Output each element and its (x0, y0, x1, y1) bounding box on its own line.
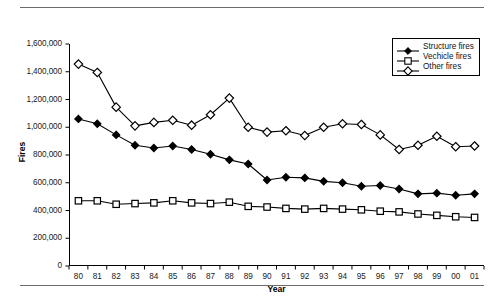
data-point-marker (414, 190, 421, 197)
data-point-marker (113, 131, 120, 138)
y-axis-tick-label: 1,200,000 (0, 96, 62, 104)
data-point-marker (414, 141, 422, 149)
x-axis-tick-label: 89 (238, 273, 258, 281)
x-axis-tick-label: 01 (465, 273, 485, 281)
x-axis-tick-label: 00 (446, 273, 466, 281)
data-point-marker (434, 212, 440, 218)
data-point-marker (415, 211, 421, 217)
data-point-marker (320, 178, 327, 185)
series-line-1 (78, 119, 474, 195)
y-axis-tick-label: 200,000 (0, 234, 62, 242)
data-point-marker (470, 142, 478, 150)
x-axis-tick-label: 87 (200, 273, 220, 281)
legend-marker-filled-diamond-icon (396, 42, 420, 52)
x-axis-tick-label: 95 (351, 273, 371, 281)
legend-item: Vechicle fires (396, 52, 474, 62)
x-axis-tick-label: 97 (389, 273, 409, 281)
data-point-marker (75, 115, 82, 122)
data-point-marker (207, 151, 214, 158)
data-point-marker (471, 190, 478, 197)
y-axis-tick-label: 800,000 (0, 151, 62, 159)
data-point-marker (169, 116, 177, 124)
y-axis-title: Fires (17, 122, 27, 182)
data-point-marker (264, 204, 270, 210)
data-point-marker (377, 182, 384, 189)
data-point-marker (453, 214, 459, 220)
data-point-marker (319, 123, 327, 131)
legend-marker-open-square-icon (396, 52, 420, 62)
data-point-marker (396, 209, 402, 215)
x-axis-tick-label: 98 (408, 273, 428, 281)
data-point-marker (150, 118, 158, 126)
data-point-marker (301, 174, 308, 181)
y-axis-tick-label: 0 (0, 262, 62, 270)
top-divider-rule (20, 7, 484, 8)
x-axis-tick-label: 80 (68, 273, 88, 281)
x-axis-tick-label: 86 (182, 273, 202, 281)
y-axis-tick-label: 1,400,000 (0, 68, 62, 76)
data-point-marker (94, 198, 100, 204)
data-point-marker (245, 203, 251, 209)
y-axis-tick-label: 400,000 (0, 207, 62, 215)
data-point-marker (301, 131, 309, 139)
data-point-marker (452, 192, 459, 199)
data-point-marker (377, 208, 383, 214)
data-point-marker (93, 68, 101, 76)
data-point-marker (188, 146, 195, 153)
data-point-marker (151, 200, 157, 206)
data-point-marker (433, 190, 440, 197)
data-point-marker (207, 200, 213, 206)
legend-item: Other fires (396, 62, 474, 72)
data-point-marker (338, 120, 346, 128)
x-axis-tick-label: 83 (125, 273, 145, 281)
x-axis-tick-label: 81 (87, 273, 107, 281)
data-point-marker (244, 123, 252, 131)
data-point-marker (226, 156, 233, 163)
x-axis-tick-label: 85 (163, 273, 183, 281)
data-point-marker (282, 174, 289, 181)
data-point-marker (226, 199, 232, 205)
data-point-marker (396, 185, 403, 192)
x-axis-tick-label: 90 (257, 273, 277, 281)
data-point-marker (75, 198, 81, 204)
data-point-marker (452, 142, 460, 150)
x-axis-tick-label: 93 (314, 273, 334, 281)
data-point-marker (471, 214, 477, 220)
data-point-marker (320, 205, 326, 211)
legend-item-label: Structure fires (420, 42, 474, 52)
data-point-marker (131, 142, 138, 149)
x-axis-tick-label: 99 (427, 273, 447, 281)
legend-item-label: Other fires (420, 62, 461, 72)
data-point-marker (283, 205, 289, 211)
data-point-marker (187, 121, 195, 129)
data-point-marker (263, 128, 271, 136)
legend-item-label: Vechicle fires (420, 52, 471, 62)
series-line-3 (78, 64, 474, 149)
data-point-marker (358, 207, 364, 213)
y-axis-tick-label: 1,600,000 (0, 40, 62, 48)
x-axis-tick-label: 88 (219, 273, 239, 281)
x-axis-title: Year (69, 284, 484, 294)
data-point-marker (282, 127, 290, 135)
data-point-marker (357, 120, 365, 128)
data-point-marker (150, 144, 157, 151)
data-point-marker (170, 198, 176, 204)
y-axis-tick-label: 600,000 (0, 179, 62, 187)
figure-page: 0200,000400,000600,000800,0001,000,0001,… (0, 0, 504, 298)
data-point-marker (169, 142, 176, 149)
line-chart: 0200,000400,000600,000800,0001,000,0001,… (0, 14, 504, 279)
legend-item: Structure fires (396, 42, 474, 52)
data-point-marker (113, 201, 119, 207)
data-point-marker (188, 200, 194, 206)
legend-marker-open-diamond-icon (396, 62, 420, 72)
x-axis-tick-label: 91 (276, 273, 296, 281)
data-point-marker (302, 206, 308, 212)
chart-legend: Structure firesVechicle firesOther fires (392, 38, 480, 76)
data-point-marker (132, 200, 138, 206)
x-axis-tick-label: 82 (106, 273, 126, 281)
data-point-marker (358, 183, 365, 190)
data-point-marker (74, 60, 82, 68)
data-point-marker (339, 179, 346, 186)
data-point-marker (433, 132, 441, 140)
x-axis-tick-label: 84 (144, 273, 164, 281)
